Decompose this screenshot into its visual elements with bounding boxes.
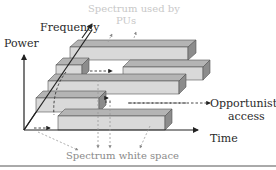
- spectrum-diagram: Power Frequency Time Spectrum used by PU…: [0, 0, 276, 170]
- pu-block-front: [58, 109, 172, 130]
- opportunistic-label-line1: Opportunistic: [210, 97, 276, 110]
- spectrum-used-label-line1: Spectrum used by: [88, 3, 180, 14]
- time-label: Time: [210, 132, 238, 145]
- spectrum-used-label-line2: PUs: [116, 15, 136, 26]
- power-label: Power: [4, 37, 40, 50]
- pu-block-back: [70, 40, 196, 60]
- white-space-label: Spectrum white space: [66, 150, 179, 161]
- frequency-label: Frequency: [40, 21, 100, 34]
- opportunistic-label-line2: access: [228, 110, 265, 123]
